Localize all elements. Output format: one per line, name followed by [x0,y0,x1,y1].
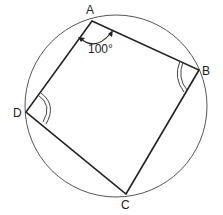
vertex-label-b: B [202,64,210,78]
cyclic-quadrilateral-figure: 100° A B C D [0,0,223,215]
circumcircle [25,15,207,197]
diagram-canvas: 100° A B C D [0,0,223,215]
angle-a-value: 100° [88,42,113,56]
angle-b-double-arc-icon [177,61,187,92]
vertex-label-c: C [121,198,130,212]
angle-d-double-arc-icon [38,93,50,124]
vertex-label-a: A [86,3,94,17]
vertex-label-d: D [13,106,22,120]
